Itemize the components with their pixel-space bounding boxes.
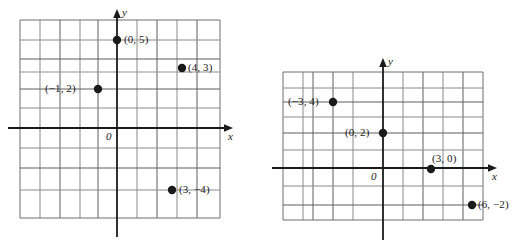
point-marker[interactable] [427,165,435,173]
point-label-3-0: (3, 0) [432,152,456,164]
axis-label-y-right: y [388,55,393,67]
point-marker[interactable] [468,201,476,209]
coordinate-plane-right [0,0,517,245]
axis-label-x-right: x [492,170,497,182]
figure-canvas: (0, 5) (4, 3) (−1, 2) (3, −4) 0 x y [0,0,517,245]
point-label-0-2: (0, 2) [345,126,369,138]
origin-label-right: 0 [371,170,377,182]
point-label-neg3-4: (−3, 4) [288,95,319,107]
point-label-6-neg2: (6, −2) [478,198,509,210]
axis-y-right [379,58,387,240]
point-marker[interactable] [329,98,337,106]
point-marker[interactable] [379,129,387,137]
